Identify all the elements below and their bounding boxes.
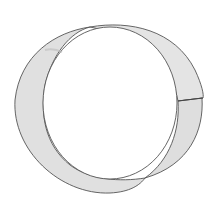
band-inner-opening xyxy=(43,27,177,179)
ring-band-drawing xyxy=(0,0,217,204)
